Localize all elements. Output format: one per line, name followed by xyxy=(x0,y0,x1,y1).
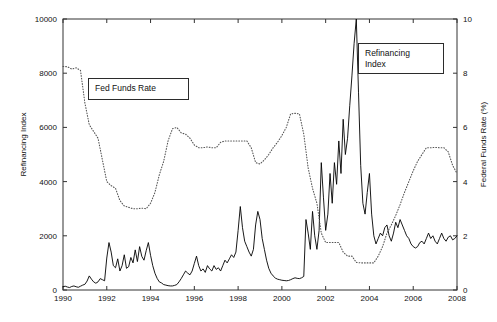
x-tick-label: 1998 xyxy=(229,294,247,303)
y-tick-label-right: 0 xyxy=(463,286,468,295)
x-tick-label: 1994 xyxy=(142,294,160,303)
annotation-refinancing-index: Refinancing Index xyxy=(358,43,444,74)
y-axis-right-title: Federal Funds Rate (%) xyxy=(479,90,488,200)
y-tick-label-right: 4 xyxy=(463,178,468,187)
x-tick-label: 2004 xyxy=(361,294,379,303)
x-tick-label: 1996 xyxy=(185,294,203,303)
chart-figure: 1990199219941996199820002002200420062008… xyxy=(0,0,497,322)
y-tick-label-left: 6000 xyxy=(39,123,57,132)
x-tick-label: 1992 xyxy=(98,294,116,303)
y-tick-label-left: 8000 xyxy=(39,69,57,78)
annotation-fed-funds-rate: Fed Funds Rate xyxy=(88,78,189,100)
x-tick-label: 1990 xyxy=(54,294,72,303)
y-tick-label-left: 2000 xyxy=(39,232,57,241)
y-tick-label-right: 8 xyxy=(463,69,468,78)
x-tick-label: 2000 xyxy=(273,294,291,303)
y-tick-label-right: 2 xyxy=(463,232,468,241)
y-tick-label-left: 4000 xyxy=(39,178,57,187)
y-axis-left-title: Refinancing Index xyxy=(19,100,28,190)
x-tick-label: 2002 xyxy=(317,294,335,303)
y-tick-label-left: 10000 xyxy=(35,15,58,24)
y-tick-label-right: 6 xyxy=(463,123,468,132)
y-tick-label-left: 0 xyxy=(53,286,58,295)
x-tick-label: 2008 xyxy=(448,294,466,303)
y-tick-label-right: 10 xyxy=(463,15,472,24)
x-tick-label: 2006 xyxy=(404,294,422,303)
